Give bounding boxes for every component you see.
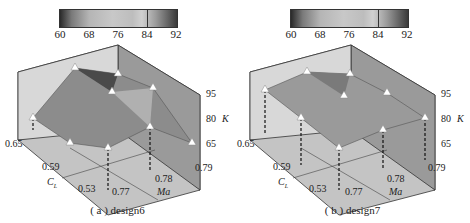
- ma-tick: 0.79: [428, 162, 446, 173]
- z-tick: 95: [206, 88, 216, 99]
- ma-axis-label: Ma: [157, 186, 170, 197]
- ma-tick: 0.77: [112, 186, 130, 197]
- cl-tick: 0.65: [5, 138, 23, 149]
- cl-tick: 0.53: [309, 183, 327, 194]
- ma-tick: 0.78: [155, 173, 173, 184]
- z-axis-label: K: [457, 113, 464, 124]
- z-tick: 65: [441, 138, 451, 149]
- z-tick: 80: [206, 113, 216, 124]
- caption: ( a ) design6: [0, 204, 235, 216]
- ma-tick: 0.79: [195, 162, 213, 173]
- ma-tick: 0.77: [345, 186, 363, 197]
- ma-axis-label: Ma: [389, 186, 402, 197]
- cl-tick: 0.53: [78, 183, 96, 194]
- z-tick: 80: [441, 113, 451, 124]
- panel-design7: 60 68 76 84 92 95 80 K 65 0.65 0.59 CL 0…: [235, 0, 470, 223]
- z-tick: 95: [441, 88, 451, 99]
- z-tick: 65: [206, 138, 216, 149]
- caption: ( b ) design7: [235, 204, 470, 216]
- ma-tick: 0.78: [387, 173, 405, 184]
- panel-design6: 60 68 76 84 92 95 80 K 65 0.65 0.59 CL: [0, 0, 235, 223]
- cl-axis-label: CL: [47, 176, 57, 189]
- cl-tick: 0.59: [42, 161, 60, 172]
- z-axis-label: K: [222, 113, 229, 124]
- cl-tick: 0.65: [237, 138, 255, 149]
- cl-axis-label: CL: [278, 176, 288, 189]
- cl-tick: 0.59: [273, 161, 291, 172]
